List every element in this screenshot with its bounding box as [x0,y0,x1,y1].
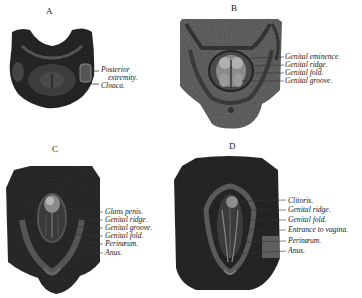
label-genital-ridge-d: Genital ridge. [288,206,331,214]
label-anus-d: Anus. [288,247,305,255]
label-perinaeum-d: Perinæum. [288,237,321,245]
label-clitoris: Clitoris. [288,197,313,205]
label-entrance-to-vagina: Entrance to vagina. [288,226,348,234]
label-genital-fold-d: Genital fold. [288,216,326,224]
specimen-d-female [0,0,362,298]
